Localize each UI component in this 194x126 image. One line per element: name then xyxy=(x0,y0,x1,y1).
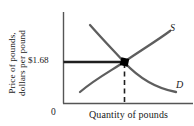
supply-demand-figure: Price of pounds, dollars per pound Quant… xyxy=(0,0,194,126)
equilibrium-price-label: $1.68 xyxy=(28,55,49,65)
equilibrium-point-marker xyxy=(120,57,129,66)
origin-label: 0 xyxy=(51,107,56,117)
supply-curve-label: S xyxy=(170,22,175,33)
x-axis-label: Quantity of pounds xyxy=(63,109,194,120)
y-axis-label-line2: dollars per pound xyxy=(18,30,28,96)
demand-curve-label: D xyxy=(176,79,183,90)
